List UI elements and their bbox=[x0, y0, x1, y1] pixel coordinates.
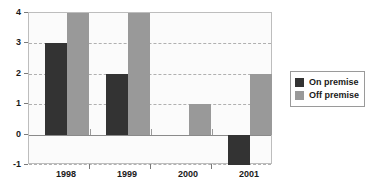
bar-chart-figure: 4 3 2 1 0 -1 1998 1999 2000 2001 On prem… bbox=[0, 0, 374, 195]
y-axis: 4 3 2 1 0 -1 bbox=[0, 0, 28, 195]
bar-off-premise-2001 bbox=[250, 74, 272, 135]
bar-off-premise-1999 bbox=[128, 13, 150, 135]
y-tick-label-3: 3 bbox=[16, 38, 21, 47]
x-tick-label-1998: 1998 bbox=[56, 170, 76, 179]
x-tick-mark-1 bbox=[89, 164, 90, 169]
bar-on-premise-1999 bbox=[106, 74, 128, 135]
y-tick-label-neg1: -1 bbox=[13, 159, 21, 168]
legend-swatch-off-premise-icon bbox=[295, 91, 304, 100]
legend-item-off-premise: Off premise bbox=[295, 89, 359, 102]
x-tick-mark-2 bbox=[150, 164, 151, 169]
x-tick-label-2000: 2000 bbox=[178, 170, 198, 179]
legend-label-on-premise: On premise bbox=[309, 78, 359, 87]
y-tick-mark-4 bbox=[24, 12, 28, 13]
y-tick-label-0: 0 bbox=[16, 129, 21, 138]
bar-on-premise-2001 bbox=[228, 135, 250, 165]
x-tick-label-2001: 2001 bbox=[239, 170, 259, 179]
zero-tick-2 bbox=[151, 129, 152, 135]
y-tick-mark-2 bbox=[24, 73, 28, 74]
y-tick-mark-3 bbox=[24, 42, 28, 43]
y-tick-label-2: 2 bbox=[16, 68, 21, 77]
x-tick-label-1999: 1999 bbox=[117, 170, 137, 179]
y-tick-label-1: 1 bbox=[16, 99, 21, 108]
y-tick-label-4: 4 bbox=[16, 8, 21, 17]
zero-tick-3 bbox=[212, 129, 213, 135]
legend: On premise Off premise bbox=[290, 71, 365, 107]
y-tick-mark-neg1 bbox=[24, 164, 28, 165]
bar-off-premise-2000 bbox=[189, 104, 211, 134]
y-tick-mark-1 bbox=[24, 103, 28, 104]
legend-label-off-premise: Off premise bbox=[309, 91, 359, 100]
zero-tick-1 bbox=[90, 129, 91, 135]
y-tick-mark-0 bbox=[24, 134, 28, 135]
bar-off-premise-1998 bbox=[67, 13, 89, 135]
x-tick-mark-3 bbox=[211, 164, 212, 169]
bar-on-premise-1998 bbox=[45, 43, 67, 134]
legend-item-on-premise: On premise bbox=[295, 76, 359, 89]
legend-swatch-on-premise-icon bbox=[295, 78, 304, 87]
plot-area bbox=[28, 12, 272, 164]
